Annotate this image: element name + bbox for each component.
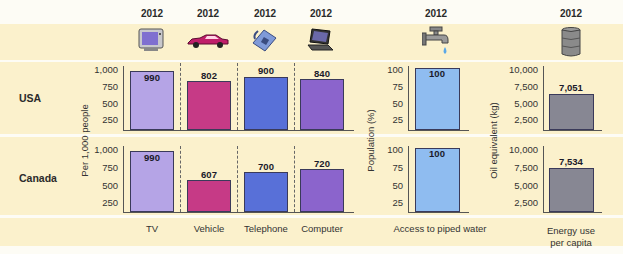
tick: 50 (363, 98, 403, 109)
tick: 75 (363, 81, 403, 92)
year-energy: 2012 (549, 8, 593, 19)
tick: 5,000 (498, 180, 538, 191)
value-usa-computer: 840 (299, 68, 345, 79)
year-water: 2012 (414, 8, 458, 19)
value-canada-computer: 720 (299, 158, 345, 169)
tick: 10,000 (498, 144, 538, 155)
tick: 2,500 (498, 197, 538, 208)
value-usa-telephone: 900 (243, 65, 289, 76)
category-label-tv: TV (122, 223, 182, 234)
tick: 250 (78, 114, 118, 125)
divider (294, 146, 295, 212)
tick: 1,000 (78, 144, 118, 155)
tick: 1,000 (78, 64, 118, 75)
year-computer: 2012 (299, 8, 343, 19)
year-vehicle: 2012 (186, 8, 230, 19)
bar-usa-computer (300, 79, 344, 130)
bar-usa-telephone (244, 77, 288, 130)
tick: 5,000 (498, 98, 538, 109)
tick: 2,500 (498, 114, 538, 125)
tick: 750 (78, 162, 118, 173)
divider (237, 146, 238, 212)
divider (180, 63, 181, 130)
category-label-energy-2: per capita (536, 237, 606, 248)
value-usa-vehicle: 802 (186, 70, 232, 81)
row-label-usa: USA (19, 92, 41, 104)
bar-canada-vehicle (187, 180, 231, 212)
bar-canada-computer (300, 169, 344, 212)
faucet-icon (422, 25, 452, 59)
year-telephone: 2012 (243, 8, 287, 19)
tick: 750 (78, 81, 118, 92)
row-label-canada: Canada (19, 172, 57, 184)
tick: 500 (78, 180, 118, 191)
value-canada-telephone: 700 (243, 161, 289, 172)
category-label-vehicle: Vehicle (179, 223, 239, 234)
divider (180, 146, 181, 212)
value-canada-vehicle: 607 (186, 169, 232, 180)
category-label-computer: Computer (292, 223, 352, 234)
value-usa-water: 100 (414, 68, 460, 79)
bar-canada-telephone (244, 172, 288, 212)
value-canada-tv: 990 (129, 152, 175, 163)
car-icon (186, 34, 230, 48)
value-usa-tv: 990 (129, 72, 175, 83)
tick: 100 (363, 64, 403, 75)
year-tv: 2012 (130, 8, 174, 19)
laptop-icon (306, 27, 334, 53)
value-canada-energy: 7,534 (548, 156, 594, 167)
divider (237, 63, 238, 130)
category-label-telephone: Telephone (236, 223, 296, 234)
tick: 25 (363, 197, 403, 208)
category-label-water: Access to piped water (380, 223, 500, 234)
tick: 250 (78, 197, 118, 208)
tick: 100 (363, 144, 403, 155)
tick: 50 (363, 180, 403, 191)
tick: 7,500 (498, 162, 538, 173)
value-usa-energy: 7,051 (548, 82, 594, 93)
bar-canada-energy (549, 168, 594, 212)
category-label-energy-1: Energy use (536, 225, 606, 236)
tick: 7,500 (498, 81, 538, 92)
tick: 500 (78, 98, 118, 109)
y-axis-label-oil: Oil equivalent (kg) (488, 91, 499, 191)
divider (294, 63, 295, 130)
telephone-icon (250, 27, 278, 53)
tv-icon (138, 28, 164, 52)
tick: 25 (363, 114, 403, 125)
oil-barrel-icon (561, 27, 581, 57)
bar-usa-vehicle (187, 81, 231, 130)
value-canada-water: 100 (414, 148, 460, 159)
tick: 10,000 (498, 64, 538, 75)
tick: 75 (363, 162, 403, 173)
bar-usa-energy (549, 94, 594, 130)
